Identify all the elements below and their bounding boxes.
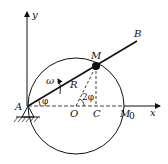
label-omega: ω [46,75,54,86]
label-b: B [133,28,141,39]
label-m: M [90,50,102,61]
label-x: x [150,107,156,118]
diagram-canvas: y x A B M O C M 0 R φ 2φ ω [0,0,168,164]
angle-phi-arc [39,100,41,106]
label-y: y [31,9,38,20]
label-phi: φ [42,96,48,106]
label-m0-sub: 0 [129,111,135,121]
label-2phi: 2φ [82,92,94,102]
ground-hatch-icon [14,117,38,122]
mechanism-diagram: y x A B M O C M 0 R φ 2φ ω [0,0,168,164]
label-a: A [14,101,22,112]
label-r: R [69,79,78,90]
point-m [92,62,100,70]
label-o: O [70,108,78,119]
label-c: C [93,108,101,119]
